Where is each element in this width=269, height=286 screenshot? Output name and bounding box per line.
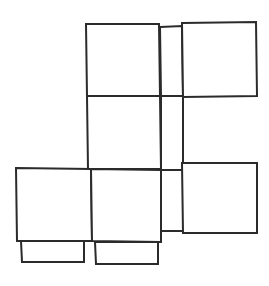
top-right-square-panel (182, 22, 257, 97)
bottom-left-square-panel (16, 168, 92, 241)
top-right-connector-strip (160, 26, 183, 96)
center-square-panel (87, 96, 161, 169)
cube-net-figure (0, 0, 269, 286)
bottom-center-glue-tab (95, 242, 158, 264)
top-square-panel (86, 24, 160, 96)
cube-net-drawing (0, 0, 269, 286)
bottom-right-connector-strip (161, 170, 183, 231)
center-right-connector-strip (161, 96, 183, 170)
bottom-center-square-panel (91, 169, 161, 242)
bottom-right-square-panel (182, 163, 257, 233)
bottom-left-glue-tab (21, 241, 84, 262)
